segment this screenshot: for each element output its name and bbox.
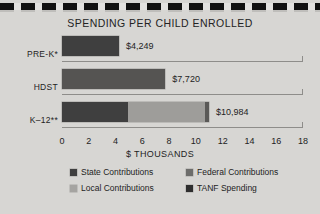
x-axis-title: $ THOUSANDS	[0, 149, 320, 159]
chart-legend: State ContributionsFederal Contributions…	[0, 167, 320, 209]
bar	[62, 36, 119, 56]
category-label: PRE-K*	[27, 49, 58, 59]
bar-segment	[62, 36, 119, 56]
x-tick-label: 14	[244, 136, 254, 146]
bar-segment	[62, 69, 165, 89]
x-tick-label: 8	[167, 136, 172, 146]
bar	[62, 102, 209, 122]
axis-end-tick	[302, 122, 303, 127]
x-tick-label: 2	[86, 136, 91, 146]
top-dashed-rule-shadow	[0, 10, 320, 12]
bar-baseline	[62, 94, 303, 95]
bar-value-label: $10,984	[216, 102, 249, 122]
x-tick-label: 0	[59, 136, 64, 146]
plot-area: $4,249$7,720$10,984	[62, 36, 303, 136]
legend-swatch	[186, 185, 193, 192]
x-tick-label: 16	[271, 136, 281, 146]
legend-label: TANF Spending	[197, 183, 257, 193]
legend-label: Federal Contributions	[197, 167, 278, 177]
legend-item: TANF Spending	[186, 183, 257, 193]
legend-item: Local Contributions	[70, 183, 154, 193]
x-tick-label: 10	[191, 136, 201, 146]
chart-title: SPENDING PER CHILD ENROLLED	[0, 17, 320, 29]
legend-label: Local Contributions	[81, 183, 154, 193]
bar-value-label: $4,249	[126, 36, 154, 56]
x-tick-label: 4	[113, 136, 118, 146]
legend-label: State Contributions	[81, 167, 153, 177]
legend-swatch	[70, 169, 77, 176]
x-tick-label: 12	[218, 136, 228, 146]
x-tick-label: 6	[140, 136, 145, 146]
legend-swatch	[186, 169, 193, 176]
bar-segment	[128, 102, 205, 122]
bar-value-label: $7,720	[172, 69, 200, 89]
legend-item: State Contributions	[70, 167, 153, 177]
axis-end-tick	[302, 56, 303, 61]
bar	[62, 69, 165, 89]
category-label: HDST	[34, 82, 58, 92]
x-tick-label: 18	[298, 136, 308, 146]
x-axis: 024681012141618	[62, 136, 303, 148]
bar-segment	[205, 102, 209, 122]
top-dashed-rule	[0, 3, 320, 10]
bar-baseline	[62, 61, 303, 62]
category-label: K–12**	[30, 115, 58, 125]
legend-item: Federal Contributions	[186, 167, 278, 177]
bar-baseline	[62, 127, 303, 128]
legend-swatch	[70, 185, 77, 192]
axis-end-tick	[302, 89, 303, 94]
bar-segment	[62, 102, 128, 122]
